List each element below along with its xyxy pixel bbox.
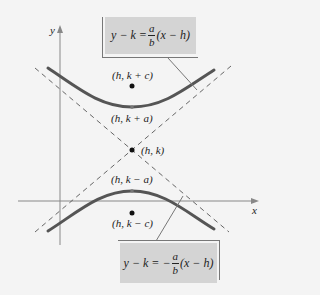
eq-bottom-lhs: y − k = − xyxy=(124,256,171,271)
eq-bottom-numerator: a xyxy=(172,251,180,264)
asymptote-positive-equation: y − k = a b (x − h) xyxy=(105,17,196,54)
callout-line-bottom xyxy=(156,196,183,241)
bottom-box-top-edge xyxy=(118,240,219,241)
top-box-bottom-edge xyxy=(102,57,198,58)
eq-top-denominator: b xyxy=(149,36,155,48)
eq-top-lhs: y − k = xyxy=(111,28,147,43)
y-axis-arrow-icon xyxy=(57,25,63,33)
top-box-left-edge xyxy=(102,17,103,58)
vertex-lower-dot xyxy=(130,189,134,193)
bottom-box-right-edge xyxy=(219,240,220,280)
points xyxy=(130,84,135,216)
center-label: (h, k) xyxy=(141,144,165,157)
eq-bottom-rhs: (x − h) xyxy=(180,256,213,271)
vertex-upper-label: (h, k + a) xyxy=(111,112,153,125)
center-dot xyxy=(130,148,135,153)
focus-lower-label: (h, k − c) xyxy=(112,217,153,230)
eq-top-fraction: a b xyxy=(148,23,156,48)
eq-bottom-fraction: a b xyxy=(172,251,180,276)
focus-upper-dot xyxy=(130,84,135,89)
eq-bottom-denominator: b xyxy=(173,264,179,276)
asymptote-negative-equation: y − k = − a b (x − h) xyxy=(120,243,217,283)
focus-lower-dot xyxy=(130,211,135,216)
vertex-upper-dot xyxy=(130,105,134,109)
point-labels: (h, k + c) (h, k + a) (h, k) (h, k − a) … xyxy=(111,69,165,230)
eq-top-numerator: a xyxy=(148,23,156,36)
eq-top-rhs: (x − h) xyxy=(156,28,189,43)
vertex-lower-label: (h, k − a) xyxy=(111,173,153,186)
x-axis-label: x xyxy=(251,204,257,216)
focus-upper-label: (h, k + c) xyxy=(112,69,153,82)
y-axis-label: y xyxy=(49,24,55,36)
callout-line-top xyxy=(168,58,197,90)
